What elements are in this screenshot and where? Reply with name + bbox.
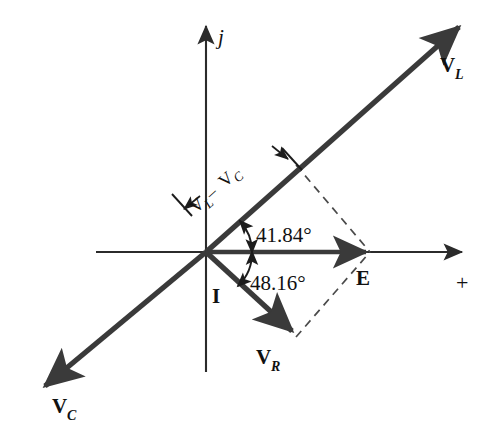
phasor-vl-label-text: V: [440, 53, 455, 77]
phasor-vc-label: V C: [52, 394, 77, 423]
phasor-vr-label-text: V: [256, 345, 271, 369]
phasor-vc-label-text: V: [52, 394, 67, 418]
extent-tick-upper: [282, 148, 302, 170]
difference-label: V L – V C: [185, 161, 246, 220]
phasor-vc-line: [45, 252, 206, 386]
angle-upper-label: 41.84°: [256, 223, 312, 247]
phasor-e-label: E: [356, 266, 370, 290]
phasor-vl-label-subscript: L: [454, 67, 464, 82]
phasor-vr-label: V R: [256, 345, 280, 374]
dashed-line-vr-to-e: [296, 252, 370, 337]
phasors-group: [45, 27, 459, 386]
phasor-i-label: I: [212, 284, 220, 308]
angle-arc-upper: [240, 221, 252, 252]
phasor-vc-label-subscript: C: [67, 408, 77, 423]
real-axis-label: +: [456, 270, 468, 295]
phasor-vl-line: [206, 27, 459, 252]
phasor-diagram: j + V L V C V R I E 41.84° 48.16° V L: [0, 0, 497, 438]
imaginary-axis-label: j: [215, 25, 224, 49]
phasor-diagram-canvas: j + V L V C V R I E 41.84° 48.16° V L: [0, 0, 497, 438]
phasor-vr-label-subscript: R: [270, 359, 280, 374]
angle-lower-label: 48.16°: [250, 271, 306, 295]
phasor-vl-label: V L: [440, 53, 464, 82]
